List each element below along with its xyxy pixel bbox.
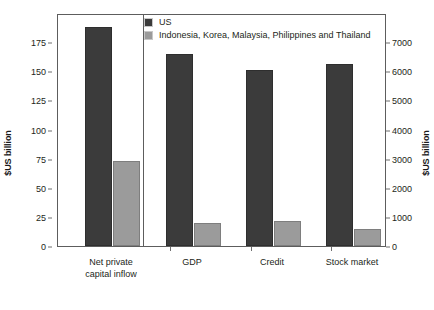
bar bbox=[326, 64, 353, 246]
bar-chart: $US billion $US billion 1751501251007550… bbox=[0, 0, 434, 310]
legend-swatch-icon bbox=[144, 31, 153, 40]
bar bbox=[194, 223, 221, 246]
bar-group bbox=[326, 15, 381, 246]
bar bbox=[85, 27, 112, 246]
axis-tick-mark bbox=[48, 130, 52, 131]
axis-tick-label: 50 bbox=[36, 184, 46, 193]
axis-tick-label: 5000 bbox=[392, 97, 412, 106]
legend-label: US bbox=[159, 18, 172, 27]
axis-tick-mark bbox=[48, 159, 52, 160]
axis-tick-label: 1000 bbox=[392, 213, 412, 222]
axis-tick-mark bbox=[48, 72, 52, 73]
legend-swatch-icon bbox=[144, 18, 153, 27]
axis-tick-label: 0 bbox=[41, 243, 46, 252]
axis-tick-mark bbox=[48, 217, 52, 218]
axis-tick-mark bbox=[48, 188, 52, 189]
y-axis-right-ticks: 70006000500040003000200010000 bbox=[386, 14, 416, 247]
axis-tick-mark bbox=[386, 43, 390, 44]
axis-tick-mark bbox=[386, 247, 390, 248]
axis-tick-mark bbox=[386, 188, 390, 189]
x-axis-label: Stock market bbox=[297, 256, 407, 268]
axis-tick-mark bbox=[386, 130, 390, 131]
axis-tick-label: 3000 bbox=[392, 155, 412, 164]
axis-tick-label: 0 bbox=[392, 243, 397, 252]
bar-group bbox=[166, 15, 221, 246]
axis-tick-label: 150 bbox=[31, 68, 46, 77]
axis-tick-label: 75 bbox=[36, 155, 46, 164]
y-axis-right-title: $US billion bbox=[421, 118, 431, 188]
axis-tick-label: 100 bbox=[31, 126, 46, 135]
axis-tick-mark bbox=[386, 217, 390, 218]
legend: USIndonesia, Korea, Malaysia, Philippine… bbox=[144, 18, 370, 40]
x-axis-tick-mark bbox=[251, 247, 252, 251]
axis-tick-mark bbox=[386, 159, 390, 160]
bar bbox=[113, 161, 140, 246]
legend-item: Indonesia, Korea, Malaysia, Philippines … bbox=[144, 31, 370, 40]
axis-tick-label: 175 bbox=[31, 39, 46, 48]
axis-tick-label: 25 bbox=[36, 213, 46, 222]
bar bbox=[246, 70, 273, 246]
axis-tick-label: 6000 bbox=[392, 68, 412, 77]
plot-area bbox=[57, 14, 386, 247]
x-axis-tick-mark bbox=[331, 247, 332, 251]
bar bbox=[354, 229, 381, 246]
axis-tick-mark bbox=[386, 72, 390, 73]
legend-item: US bbox=[144, 18, 370, 27]
x-axis-tick-mark bbox=[170, 247, 171, 251]
bar-group bbox=[85, 15, 140, 246]
axis-tick-label: 2000 bbox=[392, 184, 412, 193]
y-axis-left-ticks: 1751501251007550250 bbox=[22, 14, 52, 247]
bar-group bbox=[246, 15, 301, 246]
axis-tick-label: 7000 bbox=[392, 39, 412, 48]
axis-tick-mark bbox=[386, 101, 390, 102]
y-axis-left-title: $US billion bbox=[3, 118, 13, 188]
axis-tick-mark bbox=[48, 247, 52, 248]
legend-label: Indonesia, Korea, Malaysia, Philippines … bbox=[159, 31, 370, 40]
axis-tick-label: 4000 bbox=[392, 126, 412, 135]
group-divider bbox=[143, 15, 144, 246]
bar bbox=[274, 221, 301, 246]
axis-tick-label: 125 bbox=[31, 97, 46, 106]
axis-tick-mark bbox=[48, 43, 52, 44]
bar bbox=[166, 54, 193, 246]
axis-tick-mark bbox=[48, 101, 52, 102]
